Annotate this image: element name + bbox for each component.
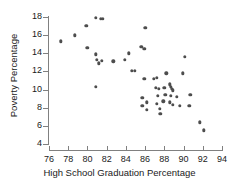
x-axis-tick-label: 90 (174, 154, 194, 164)
y-axis-tick (43, 35, 48, 36)
y-axis-tick (43, 90, 48, 91)
x-axis-tick-label-text: 80 (77, 154, 97, 164)
y-axis-tick-label-text: 6 (26, 121, 42, 130)
scatter-plot-chart: 1816141210864 76788082848688909294 Pover… (0, 0, 239, 190)
y-axis-tick (43, 126, 48, 127)
x-axis-tick-label: 78 (58, 154, 78, 164)
y-axis-tick-label-text: 10 (26, 85, 42, 94)
x-axis-tick-label-text: 78 (58, 154, 78, 164)
x-axis-tick-label: 94 (212, 154, 232, 164)
x-axis-tick-label: 80 (77, 154, 97, 164)
x-axis-tick-label: 76 (39, 154, 59, 164)
y-axis-tick-label: 18 (24, 12, 42, 21)
x-axis-tick-label-text: 76 (39, 154, 59, 164)
x-axis-tick-label-text: 82 (97, 154, 117, 164)
y-axis-tick-label-text: 18 (26, 12, 42, 21)
y-axis-tick-label-text: 14 (26, 48, 42, 57)
y-axis-tick (43, 71, 48, 72)
x-axis-tick (222, 146, 223, 151)
y-axis-tick (43, 17, 48, 18)
y-axis-title: Poverty Percentage (8, 11, 19, 141)
x-axis-tick-label: 84 (116, 154, 136, 164)
y-axis-tick (43, 144, 48, 145)
y-axis-tick (43, 53, 48, 54)
x-axis-tick-label: 86 (135, 154, 155, 164)
y-axis-tick-label: 10 (24, 85, 42, 94)
x-axis-tick-label: 88 (154, 154, 174, 164)
y-axis-tick-label: 16 (24, 30, 42, 39)
y-axis-tick (43, 108, 48, 109)
x-axis-line (49, 150, 223, 151)
y-axis-tick-label-text: 16 (26, 30, 42, 39)
x-axis-tick-label: 82 (97, 154, 117, 164)
x-axis-tick-label: 92 (193, 154, 213, 164)
x-axis-tick-label-text: 94 (212, 154, 232, 164)
x-axis-title: High School Graduation Percentage (0, 167, 239, 178)
x-axis-tick-label-text: 92 (193, 154, 213, 164)
y-axis-tick-label-text: 8 (26, 103, 42, 112)
y-axis-tick-label: 12 (24, 66, 42, 75)
y-axis-tick-label-text: 12 (26, 66, 42, 75)
x-axis-tick-label-text: 90 (174, 154, 194, 164)
y-axis-tick-label: 14 (24, 48, 42, 57)
y-axis-tick-label: 8 (24, 103, 42, 112)
x-axis-tick-label-text: 84 (116, 154, 136, 164)
y-axis-tick-label-text: 4 (26, 139, 42, 148)
x-axis-tick-label-text: 86 (135, 154, 155, 164)
y-axis-tick-label: 6 (24, 121, 42, 130)
x-axis-tick-label-text: 88 (154, 154, 174, 164)
y-axis-tick-label: 4 (24, 139, 42, 148)
